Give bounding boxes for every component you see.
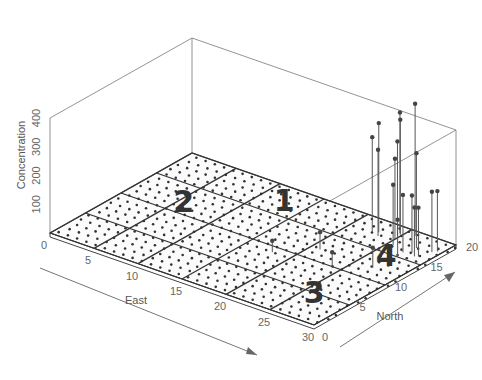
sample-dot: [320, 254, 323, 257]
sample-dot: [226, 249, 229, 252]
sample-dot: [196, 279, 199, 282]
sample-dot: [126, 221, 129, 224]
sample-dot: [304, 235, 307, 238]
sample-dot: [115, 224, 118, 227]
sample-dot: [207, 242, 210, 245]
sample-dot: [202, 220, 205, 223]
sample-dot: [346, 291, 349, 294]
sample-dot: [294, 266, 297, 269]
sample-dot: [426, 251, 429, 254]
sample-dot: [200, 246, 203, 249]
concentration-tick-label: 200: [30, 166, 42, 184]
sample-dot: [243, 194, 246, 197]
sample-dot: [180, 246, 183, 249]
sample-dot: [435, 254, 438, 257]
sample-dot: [281, 302, 284, 305]
sample-dot: [325, 311, 328, 314]
sample-dot: [168, 269, 171, 272]
spike-point: [377, 121, 381, 125]
sample-dot: [267, 256, 270, 259]
sample-dot: [307, 318, 310, 321]
sample-dot: [211, 237, 214, 240]
sample-dot: [257, 239, 260, 242]
sample-dot: [228, 236, 231, 239]
sample-dot: [343, 255, 346, 258]
sample-dot: [206, 181, 209, 184]
sample-dot: [396, 267, 399, 270]
sample-dot: [329, 258, 332, 261]
sample-dot: [187, 262, 190, 265]
sample-dot: [124, 227, 127, 230]
region-label-3: 3: [304, 275, 325, 310]
sample-dot: [363, 222, 366, 225]
sample-dot: [104, 247, 107, 250]
sample-dot: [345, 215, 348, 218]
sample-dot: [186, 167, 189, 170]
sample-dot: [85, 240, 88, 243]
sample-dot: [279, 308, 282, 311]
sample-dot: [209, 216, 212, 219]
sample-dot: [57, 231, 60, 234]
sample-dot: [165, 207, 168, 210]
sample-dot: [306, 209, 309, 212]
sample-dot: [417, 268, 420, 271]
sample-dot: [298, 301, 301, 304]
sample-dot: [256, 246, 259, 249]
sample-dot: [315, 212, 318, 215]
sample-dot: [359, 275, 362, 278]
sample-dot: [315, 232, 318, 235]
spike-point: [410, 193, 414, 197]
sample-dot: [89, 221, 92, 224]
sample-dot: [246, 229, 249, 232]
sample-dot: [246, 276, 249, 279]
sample-dot: [142, 254, 145, 257]
sample-dot: [299, 308, 302, 311]
sample-dot: [398, 241, 401, 244]
sample-dot: [357, 281, 360, 284]
sample-dot: [272, 299, 275, 302]
sample-dot: [174, 224, 177, 227]
sample-dot: [241, 173, 244, 176]
sample-dot: [265, 283, 268, 286]
sample-dot: [330, 271, 333, 274]
sample-dot: [278, 219, 281, 222]
sample-dot: [94, 244, 97, 247]
sample-dot: [313, 259, 316, 262]
sample-dot: [276, 246, 279, 249]
sample-dot: [251, 298, 254, 301]
sample-dot: [219, 219, 222, 222]
sample-dot: [170, 243, 173, 246]
sample-dot: [104, 233, 107, 236]
sample-dot: [304, 255, 307, 258]
sample-dot: [385, 277, 388, 280]
sample-dot: [276, 259, 279, 262]
sample-dot: [230, 243, 233, 246]
sample-dot: [177, 164, 180, 167]
sample-dot: [408, 244, 411, 247]
sample-dot: [332, 231, 335, 234]
sample-dot: [207, 256, 210, 259]
sample-dot: [252, 183, 255, 186]
sample-dot: [161, 260, 164, 263]
sample-dot: [230, 196, 233, 199]
sample-dot: [216, 279, 219, 282]
sample-dot: [197, 177, 200, 180]
sample-dot: [366, 284, 369, 287]
sample-dot: [359, 254, 362, 257]
sample-dot: [334, 205, 337, 208]
sample-dot: [454, 247, 457, 250]
sample-dot: [183, 227, 186, 230]
sample-dot: [195, 170, 198, 173]
sample-dot: [327, 298, 330, 301]
sample-dot: [248, 202, 251, 205]
sample-dot: [135, 224, 138, 227]
sample-dot: [232, 203, 235, 206]
sample-dot: [239, 247, 242, 250]
sample-dot: [159, 266, 162, 269]
sample-dot: [177, 259, 180, 262]
sample-dot: [115, 210, 118, 213]
sample-dot: [261, 288, 264, 291]
sample-dot: [195, 204, 198, 207]
sample-dot: [188, 161, 191, 164]
sample-dot: [317, 206, 320, 209]
